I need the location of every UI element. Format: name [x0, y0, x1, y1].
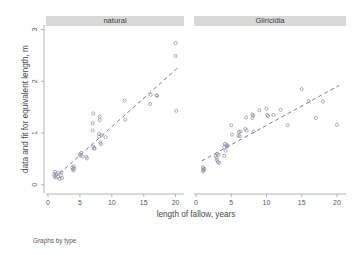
panel-natural: natural051015200123 [31, 16, 184, 206]
scatter-plot-figure: natural051015200123Gliricidia05101520len… [0, 0, 360, 265]
x-tick-label-1-4: 20 [333, 199, 341, 206]
y-tick-label-0: 0 [31, 183, 38, 187]
figure-canvas: natural051015200123Gliricidia05101520len… [0, 0, 360, 265]
figure-note: Graphs by type [33, 237, 77, 245]
x-tick-label-0-0: 0 [46, 199, 50, 206]
x-tick-label-1-1: 5 [229, 199, 233, 206]
panel-plot-area [196, 27, 344, 191]
y-tick-label-3: 3 [31, 28, 38, 32]
x-tick-label-1-3: 15 [298, 199, 306, 206]
x-axis-title: length of fallow, years [157, 210, 236, 219]
panel-gliricidia: Gliricidia05101520 [194, 16, 346, 206]
y-tick-label-1: 1 [31, 131, 38, 135]
y-axis-title: data and fit for equivalent length, m [21, 45, 30, 173]
x-tick-label-0-3: 15 [140, 199, 148, 206]
panel-title-label-0: natural [103, 16, 127, 25]
x-tick-label-1-2: 10 [263, 199, 271, 206]
x-tick-label-1-0: 0 [194, 199, 198, 206]
x-tick-label-0-2: 10 [108, 199, 116, 206]
panel-plot-area [48, 27, 182, 191]
y-tick-label-2: 2 [31, 79, 38, 83]
panel-title-label-1: Gliricidia [255, 16, 285, 25]
x-tick-label-0-1: 5 [78, 199, 82, 206]
x-tick-label-0-4: 20 [172, 199, 180, 206]
